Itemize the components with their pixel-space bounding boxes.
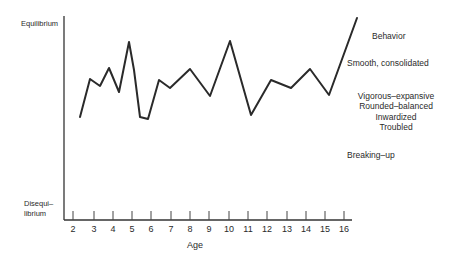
x-tick-label: 11 bbox=[240, 224, 256, 234]
x-tick-label: 14 bbox=[298, 224, 314, 234]
legend-rounded: Rounded–balanced bbox=[347, 101, 445, 111]
x-tick-label: 2 bbox=[65, 224, 81, 234]
x-tick-label: 4 bbox=[105, 224, 121, 234]
legend-inwardized: Inwardized bbox=[347, 112, 445, 122]
legend-breaking-up: Breaking–up bbox=[347, 150, 395, 160]
legend-title: Behavior bbox=[372, 31, 406, 41]
x-tick-label: 13 bbox=[279, 224, 295, 234]
legend-vigorous: Vigorous–expansive bbox=[347, 91, 445, 101]
x-tick-label: 3 bbox=[86, 224, 102, 234]
behavior-curve bbox=[80, 18, 357, 119]
x-tick-label: 16 bbox=[336, 224, 352, 234]
y-label-disequilibrium-1: Disequi– bbox=[24, 199, 53, 208]
x-tick-label: 12 bbox=[259, 224, 275, 234]
x-axis-title: Age bbox=[187, 240, 203, 250]
x-tick-label: 15 bbox=[317, 224, 333, 234]
x-tick-label: 10 bbox=[221, 224, 237, 234]
legend-troubled: Troubled bbox=[347, 122, 445, 132]
x-tick-label: 8 bbox=[182, 224, 198, 234]
legend-smooth: Smooth, consolidated bbox=[347, 58, 429, 68]
x-tick-label: 7 bbox=[163, 224, 179, 234]
x-tick-label: 9 bbox=[201, 224, 217, 234]
x-tick-label: 5 bbox=[124, 224, 140, 234]
y-label-equilibrium: Equilibrium bbox=[21, 19, 58, 28]
x-tick-label: 6 bbox=[143, 224, 159, 234]
x-ticks bbox=[73, 211, 344, 220]
y-label-disequilibrium-2: librium bbox=[24, 209, 46, 218]
